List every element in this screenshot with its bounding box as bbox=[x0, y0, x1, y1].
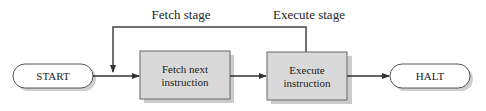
halt-node: HALT bbox=[390, 64, 473, 91]
execute-stage-label: Execute stage bbox=[273, 7, 345, 22]
fetch-label-line1: Fetch next bbox=[162, 63, 208, 75]
fetch-box bbox=[140, 51, 230, 99]
execute-label-line2: instruction bbox=[283, 77, 331, 89]
instruction-cycle-diagram: Fetch stage Execute stage START Fetch ne… bbox=[0, 0, 486, 111]
start-node: START bbox=[13, 64, 96, 91]
fetch-label-line2: instruction bbox=[161, 76, 209, 88]
execute-node: Execute instruction bbox=[267, 52, 352, 104]
fetch-node: Fetch next instruction bbox=[140, 51, 234, 103]
fetch-stage-label: Fetch stage bbox=[152, 7, 211, 22]
halt-label: HALT bbox=[416, 70, 445, 82]
execute-box bbox=[267, 52, 347, 100]
execute-label-line1: Execute bbox=[289, 64, 325, 76]
start-label: START bbox=[36, 70, 70, 82]
